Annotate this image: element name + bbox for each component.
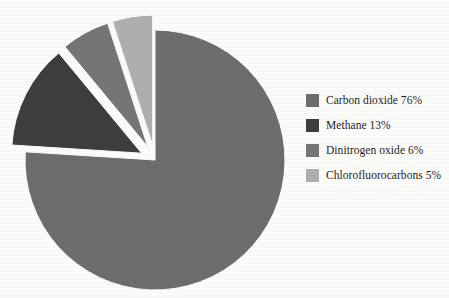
legend-swatch-carbon-dioxide bbox=[306, 94, 319, 107]
legend-label-carbon-dioxide: Carbon dioxide 76% bbox=[326, 94, 422, 107]
legend-label-dinitrogen-oxide: Dinitrogen oxide 6% bbox=[326, 144, 423, 157]
legend-label-methane: Methane 13% bbox=[326, 119, 391, 132]
pie-chart-plot-area bbox=[0, 0, 300, 298]
pie-chart-svg bbox=[0, 0, 300, 298]
legend-item-chlorofluorocarbons[interactable]: Chlorofluorocarbons 5% bbox=[306, 163, 449, 188]
pie-slice-group bbox=[12, 15, 285, 290]
pie-chart-figure: Carbon dioxide 76% Methane 13% Dinitroge… bbox=[0, 0, 449, 298]
chart-legend: Carbon dioxide 76% Methane 13% Dinitroge… bbox=[306, 88, 449, 188]
legend-item-carbon-dioxide[interactable]: Carbon dioxide 76% bbox=[306, 88, 449, 113]
legend-item-dinitrogen-oxide[interactable]: Dinitrogen oxide 6% bbox=[306, 138, 449, 163]
legend-item-methane[interactable]: Methane 13% bbox=[306, 113, 449, 138]
legend-swatch-dinitrogen-oxide bbox=[306, 144, 319, 157]
legend-swatch-methane bbox=[306, 119, 319, 132]
legend-label-chlorofluorocarbons: Chlorofluorocarbons 5% bbox=[326, 169, 441, 182]
legend-swatch-chlorofluorocarbons bbox=[306, 169, 319, 182]
